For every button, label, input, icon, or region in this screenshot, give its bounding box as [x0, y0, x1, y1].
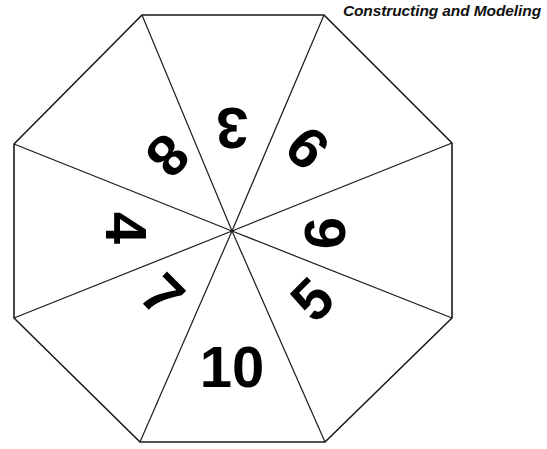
octagon-spinner-figure: 105693847 [0, 0, 547, 449]
sector-label-4: 4 [94, 212, 159, 244]
sector-label-3: 3 [216, 96, 248, 161]
sector-label-6: 6 [292, 217, 357, 249]
sector-label-10: 10 [200, 334, 265, 399]
worksheet-page: Constructing and Modeling 105693847 [0, 0, 547, 449]
